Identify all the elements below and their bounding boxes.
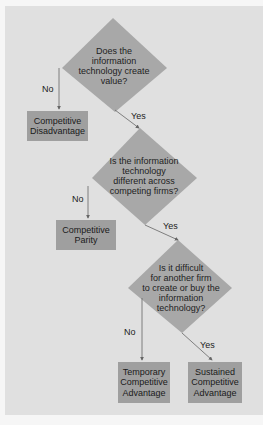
decision-2-text: Is the information technology different … <box>102 156 186 196</box>
branch-label-d1-no: No <box>42 84 54 94</box>
outcome-temporary-competitive-advantage: Temporary Competitive Advantage <box>118 362 170 403</box>
branch-label-d3-no: No <box>124 327 136 337</box>
outcome-competitive-disadvantage: Competitive Disadvantage <box>27 111 88 141</box>
outcome-sustained-competitive-advantage: Sustained Competitive Advantage <box>188 362 242 403</box>
branch-label-d1-yes: Yes <box>131 111 146 121</box>
decision-1-text: Does the information technology create v… <box>78 46 150 86</box>
branch-label-d3-yes: Yes <box>200 340 215 350</box>
branch-label-d2-yes: Yes <box>163 221 178 231</box>
branch-label-d2-no: No <box>72 194 84 204</box>
decision-3-text: Is it difficult for another firm to crea… <box>136 263 226 313</box>
outcome-competitive-parity: Competitive Parity <box>56 220 116 250</box>
